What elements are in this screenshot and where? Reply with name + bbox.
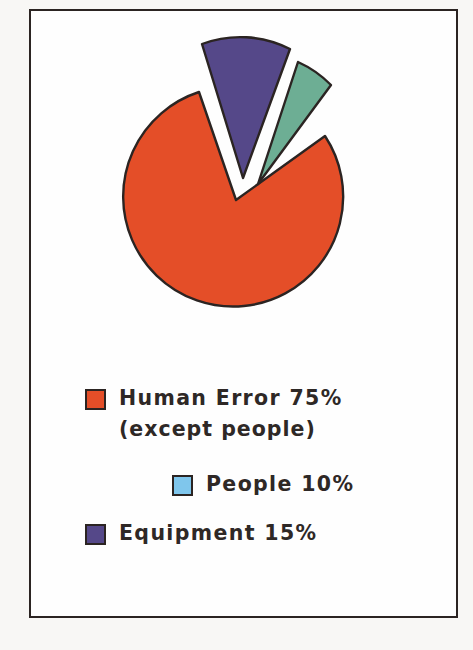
legend-item-equipment[interactable]: Equipment 15%	[31, 518, 460, 549]
legend-spacer-1	[31, 447, 460, 469]
legend-label-equipment: Equipment 15%	[119, 518, 317, 549]
legend-sublabel-human-error: (except people)	[119, 414, 343, 445]
legend-swatch-human-error	[85, 389, 106, 410]
legend-item-human-error[interactable]: Human Error 75% (except people)	[31, 383, 460, 445]
legend-text-people: People 10%	[206, 469, 354, 500]
pie-chart-svg	[2, 2, 473, 362]
legend-item-people[interactable]: People 10%	[31, 469, 460, 500]
legend-text-equipment: Equipment 15%	[119, 518, 317, 549]
legend-label-people: People 10%	[206, 469, 354, 500]
figure-frame: Human Error 75% (except people) People 1…	[29, 9, 458, 618]
pie-chart	[2, 2, 473, 362]
legend-text-human-error: Human Error 75% (except people)	[119, 383, 343, 445]
legend-label-human-error: Human Error 75%	[119, 383, 343, 414]
legend-swatch-people	[172, 475, 193, 496]
legend-swatch-equipment	[85, 524, 106, 545]
chart-legend: Human Error 75% (except people) People 1…	[31, 383, 460, 551]
legend-spacer-2	[31, 502, 460, 518]
